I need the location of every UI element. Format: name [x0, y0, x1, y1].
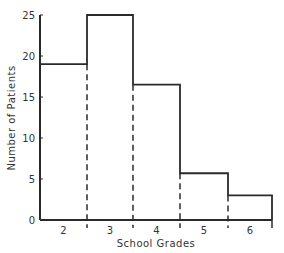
x-tick-label: 5	[201, 225, 207, 236]
x-tick-label: 4	[153, 225, 159, 236]
y-tick-label: 25	[22, 10, 35, 21]
x-tick-label: 6	[247, 225, 253, 236]
y-tick-label: 10	[22, 133, 35, 144]
y-tick-label: 20	[22, 51, 35, 62]
x-axis-label: School Grades	[117, 238, 196, 249]
histogram-chart: 051015202523456School GradesNumber of Pa…	[0, 0, 284, 253]
x-tick-label: 2	[60, 225, 66, 236]
y-tick-label: 15	[22, 92, 35, 103]
y-tick-label: 5	[29, 174, 35, 185]
y-tick-label: 0	[29, 215, 35, 226]
x-tick-label: 3	[107, 225, 113, 236]
histogram-outline	[40, 15, 272, 220]
y-axis-label: Number of Patients	[6, 65, 17, 170]
